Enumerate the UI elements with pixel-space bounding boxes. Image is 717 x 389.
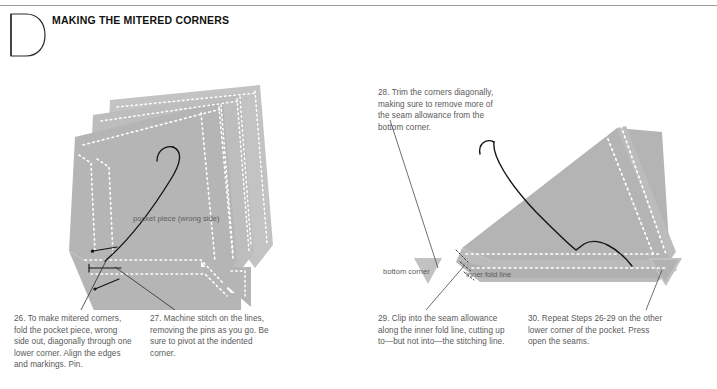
section-letter-d-icon [8, 12, 48, 58]
stitching-thread-curl [480, 141, 494, 154]
section-header: MAKING THE MITERED CORNERS [8, 10, 308, 60]
top-divider-rule [0, 5, 717, 6]
step-caption-26: 26. To make mitered corners, fold the po… [14, 313, 132, 371]
page-title: MAKING THE MITERED CORNERS [52, 14, 252, 27]
leader-line-step-28 [390, 120, 438, 268]
step-caption-28: 28. Trim the corners diagonally, making … [378, 87, 506, 133]
figure-right-trimmed-clipped-corner: .rstitch { stroke:#ffffff; stroke-width:… [370, 120, 717, 310]
pocket-piece-label: pocket piece (wrong side) [133, 214, 220, 223]
bottom-corner-label: bottom corner [383, 267, 430, 276]
step-caption-27: 27. Machine stitch on the lines, removin… [150, 313, 270, 359]
figure-left-folded-pinned-corner: .stitch { stroke:#ffffff; stroke-width:1… [55, 55, 355, 310]
step-caption-29: 29. Clip into the seam allowance along t… [378, 313, 506, 348]
inner-fold-line-label: inner fold line [466, 270, 511, 279]
step-caption-30: 30. Repeat Steps 26-29 on the other lowe… [528, 313, 668, 348]
trimmed-wedge-body [462, 128, 670, 260]
